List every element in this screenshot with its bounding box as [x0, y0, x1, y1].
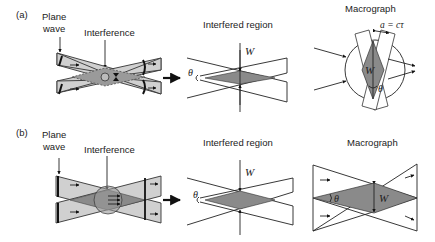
macrograph-b: W θ — [313, 164, 417, 231]
theta-symbol-macro-b: θ — [334, 193, 339, 204]
equation-label: a = cτ — [380, 20, 404, 30]
interference-diagram: (a) Plane wave Interference — [0, 0, 435, 242]
interfered-region-a: W θ — [187, 43, 287, 112]
interfered-region-label-a: Interfered region — [203, 19, 273, 30]
interference-label-b: Interference — [84, 144, 135, 155]
theta-symbol-a: θ — [188, 67, 193, 78]
crossing-beams-a — [57, 53, 161, 94]
interference-label-a: Interference — [84, 27, 135, 38]
panel-a: (a) Plane wave Interference — [16, 3, 415, 112]
interference-point-a — [101, 73, 109, 81]
interfered-region-label-b: Interfered region — [203, 137, 273, 148]
plane-wave-label-b1: Plane — [42, 129, 66, 140]
width-symbol-a: W — [245, 45, 255, 57]
panel-a-label: (a) — [16, 9, 28, 20]
crossing-beams-b — [56, 176, 161, 223]
panel-b-label: (b) — [16, 127, 28, 138]
width-symbol-b: W — [245, 166, 255, 178]
plane-wave-label-a1: Plane — [42, 11, 66, 22]
width-symbol-macro-a: W — [365, 64, 375, 76]
interfered-region-b: W θ — [187, 160, 293, 235]
theta-symbol-macro-a: θ — [378, 83, 383, 94]
plane-wave-label-b2: wave — [42, 141, 65, 152]
overlap-region-interfered-b — [205, 191, 275, 209]
plane-wave-label-a2: wave — [42, 23, 65, 34]
width-symbol-macro-b: W — [379, 192, 389, 204]
panel-b: (b) Plane wave Interference Interfered r… — [16, 127, 417, 235]
macrograph-label-b: Macrograph — [347, 137, 398, 148]
macrograph-a: W θ — [314, 30, 415, 110]
macrograph-label-a: Macrograph — [345, 3, 396, 14]
